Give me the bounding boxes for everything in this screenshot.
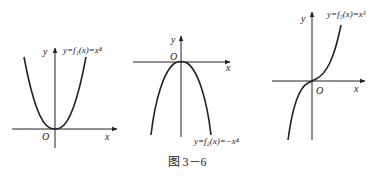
x-axis-label: x <box>104 131 110 142</box>
x-axis-label: x <box>225 62 231 73</box>
origin-label: O <box>316 85 323 96</box>
function-label-f1: y=f₁(x)=x⁴ <box>62 45 102 55</box>
y-axis-label: y <box>170 34 176 45</box>
function-graphs-figure: y O x y=f₁(x)=x⁴ y O x y=f₂(x)=−x⁴ y O x… <box>0 0 374 180</box>
y-axis-label: y <box>42 46 48 57</box>
function-label-f2: y=f₂(x)=−x⁴ <box>193 136 239 146</box>
graph-panel-f2: y O x y=f₂(x)=−x⁴ <box>133 34 239 146</box>
curve-f3 <box>288 25 341 140</box>
origin-label: O <box>42 131 49 142</box>
figure-caption: 图 3－6 <box>168 155 207 169</box>
x-axis-label: x <box>353 83 359 94</box>
graph-panel-f1: y O x y=f₁(x)=x⁴ <box>12 45 117 148</box>
origin-label: O <box>170 51 177 62</box>
y-axis-label: y <box>300 13 306 24</box>
graph-panel-f3: y O x y=f₃(x)=x³ <box>272 9 366 140</box>
function-label-f3: y=f₃(x)=x³ <box>326 9 366 19</box>
